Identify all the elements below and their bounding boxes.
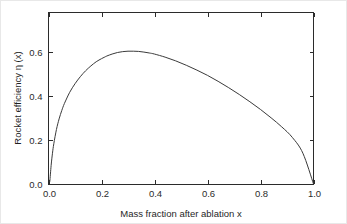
x-tick-label: 0.0: [43, 188, 56, 199]
x-axis-title: Mass fraction after ablation x: [120, 208, 242, 219]
x-tick-label: 0.6: [202, 188, 215, 199]
x-tick-label: 0.8: [255, 188, 268, 199]
efficiency-curve: [50, 51, 314, 184]
x-tick-label: 1.0: [308, 188, 321, 199]
plot-frame: [49, 13, 314, 185]
x-tick-label: 0.4: [149, 188, 162, 199]
rocket-efficiency-plot: 0.00.20.40.60.81.0 0.00.20.40.6 Mass fra…: [1, 1, 347, 224]
y-tick-label: 0.6: [29, 47, 42, 58]
y-tick-label: 0.4: [29, 91, 42, 102]
y-axis-tick-labels: 0.00.20.40.6: [29, 47, 42, 190]
x-axis-ticks-bottom: [50, 180, 315, 184]
y-tick-label: 0.2: [29, 135, 42, 146]
x-axis-ticks-top: [50, 13, 315, 17]
y-axis-ticks-left: [49, 53, 53, 185]
y-tick-label: 0.0: [29, 179, 42, 190]
chart-figure: 0.00.20.40.60.81.0 0.00.20.40.6 Mass fra…: [0, 0, 347, 224]
x-axis-tick-labels: 0.00.20.40.60.81.0: [43, 188, 321, 199]
y-axis-title: Rocket efficiency η (x): [12, 51, 23, 144]
y-axis-ticks-right: [310, 53, 314, 185]
x-tick-label: 0.2: [96, 188, 109, 199]
